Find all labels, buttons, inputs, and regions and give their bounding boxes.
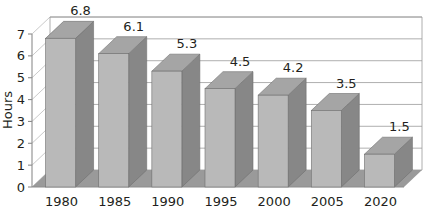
y-tick-label: 4 [17,92,25,107]
value-label-1995: 4.5 [230,54,251,69]
value-label-2020: 1.5 [389,119,410,134]
bar-1980 [46,21,94,187]
category-label-2005: 2005 [311,194,344,209]
y-tick-label: 3 [17,114,25,129]
y-tick-label: 2 [17,136,25,151]
bar-1990 [152,54,200,187]
y-tick-label: 0 [17,180,25,195]
y-tick-label: 6 [17,48,25,63]
value-label-1985: 6.1 [123,19,144,34]
y-tick-label: 1 [17,158,25,173]
y-tick-label: 7 [17,27,25,42]
category-label-2020: 2020 [364,194,397,209]
category-label-1980: 1980 [45,194,78,209]
bar-1995 [205,72,253,187]
bar-2005 [311,94,359,188]
value-label-2005: 3.5 [336,76,357,91]
value-label-1990: 5.3 [177,36,198,51]
y-axis-title: Hours [0,91,15,129]
y-tick-label: 5 [17,70,25,85]
category-label-2000: 2000 [258,194,291,209]
bar-chart-3d: 01234567 6.86.15.34.54.23.51.5 198019851… [0,0,433,217]
value-label-2000: 4.2 [283,60,304,75]
category-label-1995: 1995 [204,194,237,209]
category-label-1985: 1985 [98,194,131,209]
category-label-1990: 1990 [151,194,184,209]
chart-container: 01234567 6.86.15.34.54.23.51.5 198019851… [0,0,433,217]
value-label-1980: 6.8 [70,3,91,18]
bar-1985 [99,37,147,187]
bar-2000 [258,78,306,187]
